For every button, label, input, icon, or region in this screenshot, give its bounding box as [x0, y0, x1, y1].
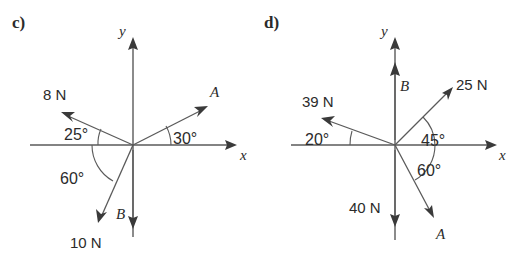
panel-d-vector-25n-arrowhead	[442, 87, 453, 100]
panel-c-x-axis-label: x	[239, 147, 247, 163]
panel-d-angle-20-arc	[350, 131, 352, 145]
panel-d-vector-39n-shaft	[329, 121, 395, 145]
panel-c-vector-10n-arrowhead	[96, 209, 107, 223]
panel-c-vector-8n-magnitude-label: 8 N	[43, 86, 66, 103]
panel-c-vector-8n-arrowhead	[61, 112, 75, 122]
panel-d-vector-b-label: B	[400, 78, 409, 94]
panel-c-vector-a-arrowhead	[194, 106, 208, 117]
panel-c-label: c)	[12, 13, 25, 32]
panel-c-vector-a-label: A	[209, 84, 220, 100]
panel-d-vector-39n-magnitude-label: 39 N	[302, 93, 334, 110]
panel-d-angle-60-label: 60°	[417, 162, 441, 179]
panel-d-x-axis-label: x	[498, 147, 506, 163]
panel-d-y-axis-label: y	[379, 23, 388, 39]
vector-diagram-figure: c) x y 8 N 25° A 30° 10 N	[0, 0, 509, 258]
panel-c-y-axis-label: y	[117, 23, 126, 39]
panel-d-vector-b-arrowhead	[390, 62, 400, 76]
panel-c-angle-60-label: 60°	[60, 170, 84, 187]
panel-d-label: d)	[264, 13, 279, 32]
panel-d-vector-a-label: A	[435, 226, 446, 242]
panel-d: d) x y B 39 N 20° 25 N 45°	[264, 13, 506, 242]
panel-d-vector-40n-magnitude-label: 40 N	[349, 199, 381, 216]
panel-d-vector-a-arrowhead	[424, 205, 434, 218]
panel-d-angle-45-label: 45°	[421, 132, 445, 149]
panel-c-vector-10n-magnitude-label: 10 N	[70, 234, 102, 251]
panel-c-angle-25-label: 25°	[64, 126, 88, 143]
panel-c-angle-25-arc	[98, 129, 101, 145]
panel-c-vector-b-label: B	[116, 206, 125, 222]
panel-d-vector-39n-arrowhead	[321, 116, 335, 127]
panel-c-angle-60-arc	[92, 145, 113, 181]
panel-c: c) x y 8 N 25° A 30° 10 N	[12, 13, 247, 251]
figure-canvas: c) x y 8 N 25° A 30° 10 N	[0, 0, 509, 258]
panel-d-vector-25n-magnitude-label: 25 N	[456, 76, 488, 93]
panel-c-angle-30-label: 30°	[173, 130, 197, 147]
panel-c-angle-30-arc	[166, 126, 171, 145]
panel-c-vector-10n-shaft	[102, 145, 133, 215]
panel-d-angle-20-label: 20°	[305, 131, 329, 148]
